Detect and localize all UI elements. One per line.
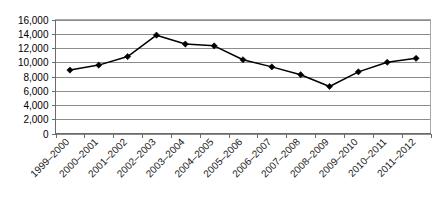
x-axis-labels: 1999–20002000–20012001–20022002–20032003… [28, 136, 418, 179]
axes-group [56, 20, 431, 134]
line-chart: 02,0004,0006,0008,00010,00012,00014,0001… [0, 0, 447, 198]
y-axis-tick-label: 0 [43, 129, 49, 140]
data-markers [67, 32, 419, 90]
y-axis-tick-label: 6,000 [23, 86, 48, 97]
plot-frame [56, 20, 431, 134]
data-point-marker [326, 83, 332, 89]
data-point-marker [413, 55, 419, 61]
y-axis-tick-label: 12,000 [18, 43, 49, 54]
data-point-marker [182, 41, 188, 47]
gridlines-group [56, 21, 431, 135]
y-axis-tick-label: 8,000 [23, 72, 48, 83]
y-axis-tick-label: 16,000 [18, 15, 49, 26]
y-axis-ticks: 02,0004,0006,0008,00010,00012,00014,0001… [18, 15, 56, 140]
plot-area-border [56, 20, 431, 134]
y-axis-tick-label: 2,000 [23, 114, 48, 125]
data-point-marker [355, 69, 361, 75]
data-point-marker [67, 67, 73, 73]
data-point-marker [298, 72, 304, 78]
data-point-marker [269, 64, 275, 70]
data-point-marker [384, 59, 390, 65]
y-axis-tick-label: 10,000 [18, 57, 49, 68]
y-axis-tick-label: 4,000 [23, 100, 48, 111]
chart-canvas: 02,0004,0006,0008,00010,00012,00014,0001… [0, 0, 447, 198]
data-point-marker [240, 57, 246, 63]
y-axis-tick-label: 14,000 [18, 29, 49, 40]
